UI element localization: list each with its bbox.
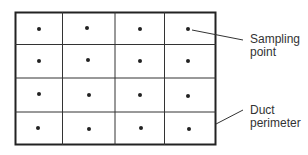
sampling-point-dot — [139, 126, 143, 130]
sampling-point-dot — [37, 92, 41, 96]
sampling-point-label: Sampling point — [250, 33, 300, 59]
sampling-point-label-line2: point — [250, 46, 300, 59]
sampling-point-dot — [138, 27, 142, 31]
sampling-point-dot — [138, 93, 142, 97]
sampling-point-dot — [186, 59, 190, 63]
sampling-point-dot — [36, 126, 40, 130]
sampling-point-dot — [86, 58, 90, 62]
sampling-point-leader — [192, 30, 243, 40]
sampling-point-dot — [186, 94, 190, 98]
sampling-point-dot — [87, 93, 91, 97]
sampling-point-dot — [87, 127, 91, 131]
sampling-point-dot — [85, 26, 89, 30]
duct-perimeter-label-line2: perimeter — [250, 117, 301, 130]
duct-perimeter-leader — [216, 110, 243, 124]
sampling-point-dot — [187, 127, 191, 131]
sampling-point-dot — [138, 59, 142, 63]
sampling-grid-diagram — [0, 0, 308, 155]
sampling-point-dot — [186, 27, 190, 31]
sampling-point-dot — [37, 59, 41, 63]
duct-perimeter-label: Duct perimeter — [250, 104, 301, 130]
sampling-point-dot — [37, 27, 41, 31]
